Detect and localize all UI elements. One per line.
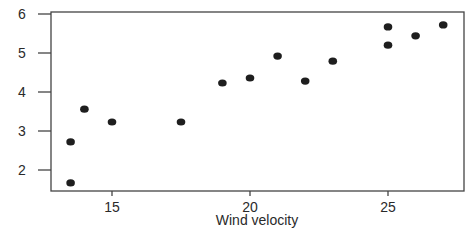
data-point: [329, 58, 338, 65]
y-axis: 23456: [18, 6, 51, 178]
data-point: [66, 179, 75, 186]
plot-frame: [51, 12, 464, 191]
data-point: [177, 118, 186, 125]
data-point: [301, 78, 310, 85]
x-tick-label: 25: [380, 199, 396, 215]
data-point: [218, 79, 227, 86]
x-axis-title: Wind velocity: [216, 212, 298, 228]
scatter-chart: 23456 152025 Wind velocity: [0, 0, 475, 239]
data-points: [66, 21, 447, 186]
x-tick-label: 15: [104, 199, 120, 215]
data-point: [384, 23, 393, 30]
y-tick-label: 5: [18, 45, 26, 61]
data-point: [273, 53, 282, 60]
data-point: [66, 138, 75, 145]
data-point: [411, 32, 420, 39]
y-tick-label: 4: [18, 84, 26, 100]
data-point: [439, 21, 448, 28]
data-point: [384, 42, 393, 49]
data-point: [108, 118, 117, 125]
y-tick-label: 6: [18, 6, 26, 22]
data-point: [80, 106, 89, 113]
y-tick-label: 3: [18, 123, 26, 139]
data-point: [246, 74, 255, 81]
y-tick-label: 2: [18, 162, 26, 178]
